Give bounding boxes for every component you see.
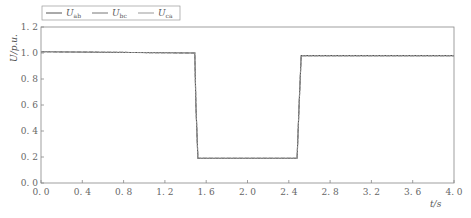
series-line-u-ca xyxy=(41,52,454,159)
x-tick-label: 3. 6 xyxy=(404,187,421,197)
y-axis-ticks: 0. 00. 20. 40. 60. 81. 01. 2 xyxy=(21,22,44,188)
series-line-u-bc xyxy=(41,52,454,159)
voltage-chart: 0. 00. 40. 81. 21. 62. 02. 42. 83. 23. 6… xyxy=(0,0,471,218)
x-axis-label: t/s xyxy=(430,199,442,209)
y-tick-label: 1. 2 xyxy=(21,22,38,32)
legend: UabUbcUca xyxy=(42,6,180,20)
y-axis-label: U/p.u. xyxy=(9,34,19,62)
x-tick-label: 3. 2 xyxy=(363,187,380,197)
y-tick-label: 0. 6 xyxy=(21,100,38,110)
y-tick-label: 1. 0 xyxy=(21,48,38,58)
y-tick-label: 0. 2 xyxy=(21,152,38,162)
y-tick-label: 0. 0 xyxy=(21,178,38,188)
x-tick-label: 0. 8 xyxy=(115,187,132,197)
x-tick-label: 4. 0 xyxy=(445,187,462,197)
x-axis-ticks: 0. 00. 40. 81. 21. 62. 02. 42. 83. 23. 6… xyxy=(32,180,462,197)
x-tick-label: 0. 4 xyxy=(74,187,91,197)
x-tick-label: 2. 0 xyxy=(239,187,256,197)
y-tick-label: 0. 4 xyxy=(21,126,38,136)
y-tick-label: 0. 8 xyxy=(21,74,38,84)
plot-frame xyxy=(41,27,454,183)
series-lines xyxy=(41,52,454,159)
x-tick-label: 0. 0 xyxy=(32,187,49,197)
series-line-u-ab xyxy=(41,52,454,159)
x-tick-label: 1. 2 xyxy=(156,187,173,197)
x-tick-label: 1. 6 xyxy=(198,187,215,197)
x-tick-label: 2. 8 xyxy=(322,187,339,197)
x-tick-label: 2. 4 xyxy=(280,187,297,197)
